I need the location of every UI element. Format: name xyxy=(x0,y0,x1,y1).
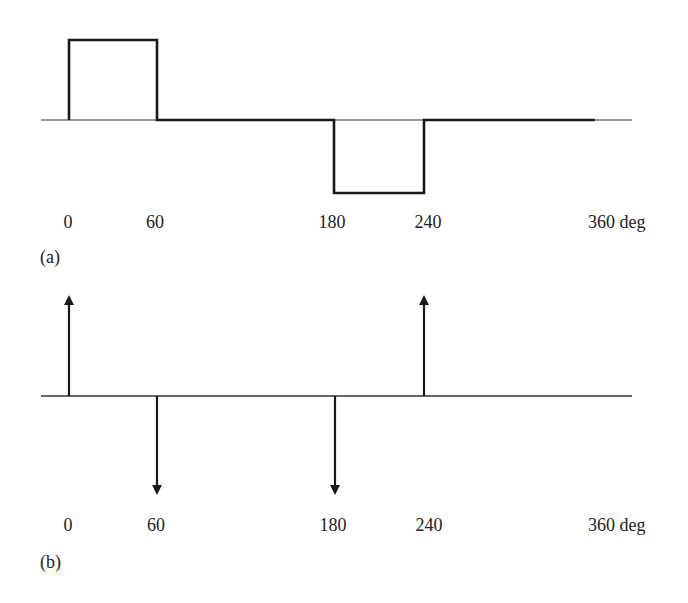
panel-b-tick-0: 0 xyxy=(64,516,73,534)
diagram-canvas xyxy=(0,0,688,603)
panel-a-tick-180: 180 xyxy=(319,213,346,231)
panel-a-tick-360: 360 deg xyxy=(588,213,646,231)
panel-b-tick-360: 360 deg xyxy=(588,516,646,534)
panel-b-tick-60: 60 xyxy=(147,516,165,534)
panel-b-tick-240: 240 xyxy=(416,516,443,534)
panel-b-impulses xyxy=(41,300,632,490)
panel-a-tick-240: 240 xyxy=(415,213,442,231)
panel-a-tick-0: 0 xyxy=(64,213,73,231)
panel-b-tick-180: 180 xyxy=(320,516,347,534)
panel-a-waveform xyxy=(41,40,632,193)
panel-b-caption: (b) xyxy=(40,553,61,571)
panel-a-pulse-trace xyxy=(69,40,595,193)
panel-a-caption: (a) xyxy=(40,248,60,266)
panel-a-tick-60: 60 xyxy=(146,213,164,231)
